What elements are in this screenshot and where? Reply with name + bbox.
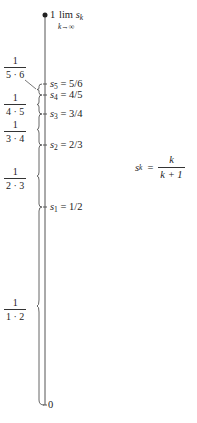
fraction-1-over-2x3: 1 2 · 3	[4, 167, 26, 191]
formula: sk = k k + 1	[135, 155, 185, 180]
diagram-graphics	[0, 0, 197, 423]
pointer-line	[25, 80, 36, 89]
formula-fraction: k k + 1	[158, 155, 184, 180]
brace-5-6	[37, 84, 42, 95]
fraction-1-over-1x2: 1 1 · 2	[4, 298, 26, 322]
fraction-1-over-3x4: 1 3 · 4	[4, 120, 26, 144]
lim-under: k→∞	[58, 22, 74, 31]
top-label-one: 1	[50, 10, 55, 21]
lim-var-sub: k	[80, 13, 83, 22]
brace-1-2	[37, 207, 44, 405]
brace-3-4	[37, 114, 42, 145]
brace-2-3	[37, 145, 42, 207]
point-label-s1: s1 = 1/2	[50, 202, 82, 214]
point-label-s4: s4 = 4/5	[50, 90, 82, 102]
fraction-1-over-5x6: 1 5 · 6	[4, 56, 26, 80]
bottom-label-zero: 0	[48, 400, 53, 411]
brace-4-5	[37, 95, 42, 114]
lim-text: lim	[59, 9, 73, 20]
fraction-1-over-4x5: 1 4 · 5	[4, 93, 26, 117]
point-label-s3: s3 = 3/4	[50, 109, 82, 121]
point-label-s2: s2 = 2/3	[50, 140, 82, 152]
limit-point	[43, 13, 48, 18]
limit-expression: lim sk	[59, 10, 83, 22]
